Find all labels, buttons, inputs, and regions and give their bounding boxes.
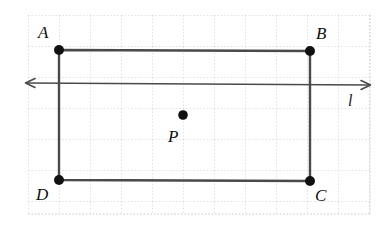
label-vertex-d: D [36, 186, 48, 203]
point-marker-b [305, 46, 315, 56]
label-point-p: P [168, 128, 178, 145]
label-vertex-b: B [316, 25, 326, 42]
geometry-figure: A B C D P l [0, 0, 387, 228]
point-marker-d [54, 175, 64, 185]
label-line-l: l [348, 93, 352, 109]
point-marker-c [305, 176, 315, 186]
diagram-canvas [0, 0, 387, 228]
point-marker-p [178, 110, 188, 120]
grid-background [28, 15, 370, 214]
point-marker-a [54, 45, 64, 55]
label-vertex-c: C [315, 187, 326, 204]
label-vertex-a: A [38, 24, 48, 41]
